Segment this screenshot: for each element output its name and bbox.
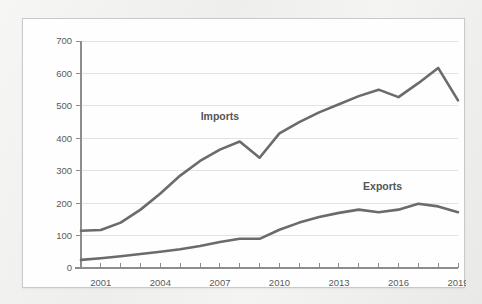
y-axis-tick-label: 300 (56, 165, 72, 176)
series-label-exports: Exports (363, 180, 402, 192)
chart-card: 0100200300400500600700 20012004200720102… (22, 18, 465, 288)
line-chart: 0100200300400500600700 20012004200720102… (23, 19, 466, 289)
y-tick-marks (76, 41, 81, 268)
y-axis-tick-label: 400 (56, 133, 72, 144)
series-annotations: ImportsExports (201, 110, 403, 192)
y-axis-tick-label: 100 (56, 230, 72, 241)
series-label-imports: Imports (201, 110, 240, 122)
data-series-lines (81, 68, 458, 260)
x-axis-tick-label: 2007 (209, 277, 230, 288)
y-axis-tick-label: 200 (56, 198, 72, 209)
x-axis-tick-label: 2010 (269, 277, 290, 288)
x-axis-tick-labels: 2001200420072010201320162019 (90, 277, 466, 288)
y-axis-tick-label: 500 (56, 100, 72, 111)
x-axis-tick-label: 2016 (388, 277, 409, 288)
y-axis-tick-label: 700 (56, 35, 72, 46)
x-tick-marks (81, 263, 458, 268)
y-axis-tick-label: 0 (67, 262, 72, 273)
axis-lines (75, 41, 458, 268)
x-axis-tick-label: 2013 (328, 277, 349, 288)
x-axis-tick-label: 2019 (447, 277, 466, 288)
y-axis-tick-labels: 0100200300400500600700 (56, 35, 72, 273)
x-axis-tick-label: 2001 (90, 277, 111, 288)
y-axis-tick-label: 600 (56, 68, 72, 79)
x-axis-tick-label: 2004 (150, 277, 171, 288)
series-line-imports (81, 68, 458, 231)
